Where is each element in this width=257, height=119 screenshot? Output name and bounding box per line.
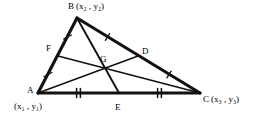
vertex-label-C: C(x₃ , y₃) xyxy=(203,95,239,104)
midpoint-label-F: F xyxy=(46,44,51,53)
vertex-coord-A: (x₁ , y₁) xyxy=(14,102,42,111)
median-C-to-F xyxy=(58,56,200,93)
centroid-label-G: G xyxy=(100,55,107,64)
midpoint-label-D: D xyxy=(142,47,149,56)
vertex-label-B: B(x₂ , y₂) xyxy=(68,2,104,11)
vertex-label-C-text: C xyxy=(203,94,209,104)
triangle-sides xyxy=(38,18,200,93)
vertex-label-A: A xyxy=(27,86,34,95)
medians xyxy=(38,18,200,93)
vertex-coord-B: (x₂ , y₂) xyxy=(76,1,104,11)
midpoint-label-E: E xyxy=(115,103,121,112)
vertex-coord-C: (x₃ , y₃) xyxy=(211,94,239,104)
geometry-figure: B(x₂ , y₂) A (x₁ , y₁) C(x₃ , y₃) F D G … xyxy=(0,0,257,119)
vertex-label-B-text: B xyxy=(68,1,74,11)
